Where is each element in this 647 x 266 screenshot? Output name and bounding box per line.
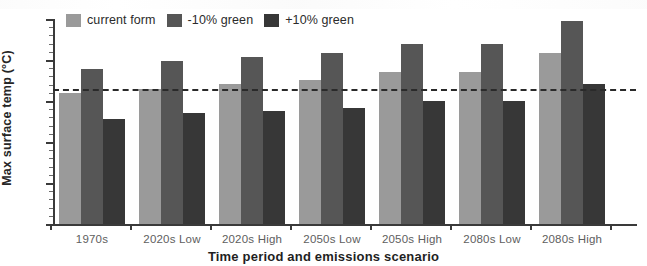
bar [161,61,183,224]
y-axis-minor-tick [49,27,53,28]
y-axis-minor-tick [49,175,53,176]
bar [81,69,103,224]
y-axis-tick [46,19,53,21]
bar [583,84,605,224]
x-axis-tick [290,224,292,230]
y-axis-minor-tick [49,208,53,209]
x-axis-tick-label: 2050s High [367,233,457,245]
y-axis-tick [46,142,53,144]
y-axis-minor-tick [49,44,53,45]
x-axis-tick [530,224,532,230]
bar [539,53,561,224]
y-axis-minor-tick [49,117,53,118]
y-axis-label: Max surface temp (°C) [0,50,14,186]
x-axis-tick-label: 2050s Low [287,233,377,245]
y-axis-minor-tick [49,126,53,127]
x-axis-tick [370,224,372,230]
bar-group [459,19,525,224]
bar [139,89,161,224]
x-axis-tick [450,224,452,230]
y-axis-minor-tick [49,167,53,168]
bar [321,53,343,224]
bar [241,57,263,224]
y-axis-minor-tick [49,134,53,135]
bar-chart: Max surface temp (°C) current form -10% … [0,0,647,266]
reference-line [53,89,636,91]
bar-group [539,19,605,224]
bar-group [379,19,445,224]
plot-area: 152025303540 [53,19,636,224]
y-axis-minor-tick [49,52,53,53]
y-axis-minor-tick [49,191,53,192]
x-axis-tick [50,224,52,230]
y-axis-tick [46,60,53,62]
scan-noise-band [0,0,647,9]
y-axis-minor-tick [49,150,53,151]
y-axis-minor-tick [49,35,53,36]
x-axis-tick [210,224,212,230]
y-axis-minor-tick [49,158,53,159]
y-axis-tick [46,101,53,103]
x-axis-tick-label: 2020s High [207,233,297,245]
bar-group [139,19,205,224]
x-axis-line [53,224,637,226]
y-axis-label-container: Max surface temp (°C) [0,30,16,205]
bar-group [219,19,285,224]
y-axis-minor-tick [49,109,53,110]
bar [561,21,583,224]
x-axis-tick-label: 2020s Low [127,233,217,245]
bar [299,80,321,224]
bar [103,119,125,224]
x-axis-tick-label: 2080s Low [447,233,537,245]
bar [59,93,81,224]
y-axis-minor-tick [49,216,53,217]
bar-group [299,19,365,224]
bar-group [59,19,125,224]
bar [503,101,525,224]
y-axis-minor-tick [49,199,53,200]
bar [423,101,445,224]
bar [379,72,401,224]
y-axis-minor-tick [49,68,53,69]
bar [263,111,285,224]
bar [183,113,205,224]
x-axis-tick-label: 1970s [47,233,137,245]
bar [401,44,423,224]
y-axis-minor-tick [49,76,53,77]
bar [343,108,365,224]
y-axis-minor-tick [49,85,53,86]
x-axis-tick [610,224,612,230]
x-axis-label: Time period and emissions scenario [0,249,647,264]
bar [481,44,503,224]
x-axis-tick [130,224,132,230]
bar [459,72,481,224]
x-axis-tick-label: 2080s High [527,233,617,245]
y-axis-tick [46,183,53,185]
y-axis-minor-tick [49,93,53,94]
bar [219,84,241,224]
